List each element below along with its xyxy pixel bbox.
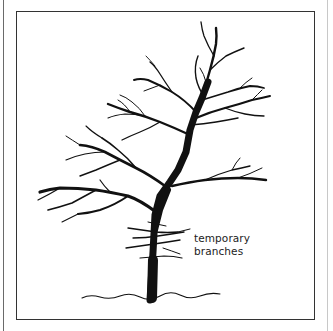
annotation-line-1: temporary <box>194 232 250 245</box>
branch-left-upper <box>80 145 165 186</box>
annotation-line-2: branches <box>194 245 243 258</box>
trunk <box>150 82 208 300</box>
branch-mid-left <box>108 104 190 135</box>
branch-upper-left <box>134 79 196 112</box>
branch-right-lower <box>172 178 266 186</box>
tree-illustration <box>0 0 333 331</box>
branch-left-lower <box>40 188 156 212</box>
